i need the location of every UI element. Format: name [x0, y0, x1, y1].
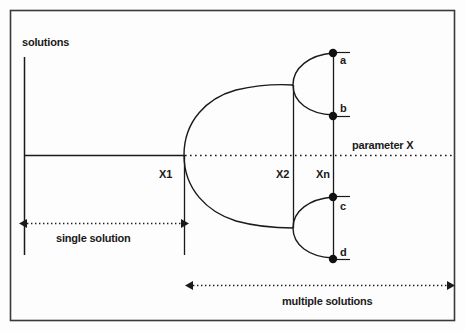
branch-to-b — [293, 85, 333, 115]
point-label-b: b — [340, 102, 347, 114]
branch-to-c — [293, 197, 333, 228]
branch-to-a — [293, 53, 333, 85]
figure-border — [11, 11, 455, 321]
bifurcation-diagram-figure: solutions parameter X X1 X2 Xn a b c d s… — [0, 0, 465, 333]
tick-label-x1: X1 — [159, 168, 172, 180]
solution-point-b — [329, 112, 337, 120]
region-label-multiple-solutions: multiple solutions — [282, 295, 373, 307]
x-axis-label: parameter X — [352, 139, 414, 151]
point-label-d: d — [340, 246, 347, 258]
solution-point-d — [329, 255, 337, 263]
tick-label-xn: Xn — [316, 168, 330, 180]
bifurcation-diagram-svg: solutions parameter X X1 X2 Xn a b c d s… — [0, 0, 465, 333]
point-label-c: c — [340, 200, 346, 212]
y-axis-label: solutions — [22, 36, 69, 48]
branch-to-d — [293, 228, 333, 258]
solution-point-a — [329, 49, 337, 57]
point-label-a: a — [340, 54, 347, 66]
region-label-single-solution: single solution — [56, 232, 131, 244]
solution-point-c — [329, 193, 337, 201]
lower-primary-branch — [184, 155, 293, 228]
upper-primary-branch — [184, 85, 293, 155]
tick-label-x2: X2 — [276, 168, 289, 180]
